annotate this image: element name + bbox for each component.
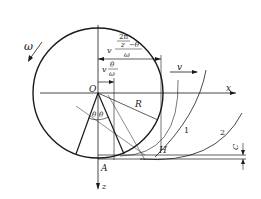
radius-label: R (134, 99, 142, 109)
curve-2-label: 2 (220, 128, 225, 137)
short-dim-num: θ (110, 61, 115, 69)
theta-left-label: θ (92, 111, 97, 119)
radius-line (98, 93, 158, 120)
short-dim-den: ω (109, 70, 115, 78)
point-a-label: A (100, 163, 108, 173)
velocity-arrow-head (192, 70, 198, 74)
dim-arrow-right (155, 57, 161, 61)
tooth-left-edge (76, 93, 98, 154)
long-dim-num-z: z (120, 41, 125, 49)
diagram-canvas: ω v v 2π z −θ ω v θ ω O x z R θ θ A H 1 … (0, 0, 261, 199)
trajectory-curve-2 (140, 113, 242, 160)
long-dim-v: v (107, 46, 112, 55)
long-dim-den: ω (124, 51, 130, 59)
construction-arc (120, 80, 178, 156)
point-h-label: H (158, 145, 167, 155)
clearance-arrow-bottom-head (241, 159, 245, 164)
velocity-label: v (177, 62, 182, 72)
tooth-right-edge (98, 93, 124, 154)
long-dim-num-2pi: 2π (119, 33, 128, 41)
x-axis-label: x (226, 83, 231, 93)
short-dim-arrow (109, 80, 114, 84)
construction-line-1 (76, 106, 145, 155)
curve-1-label: 1 (184, 126, 189, 135)
clearance-arrow-top-head (241, 150, 245, 155)
short-dim-v: v (102, 65, 107, 74)
long-dim-num-theta: −θ (129, 41, 140, 49)
origin-label: O (89, 84, 97, 94)
z-axis-arrow (96, 183, 100, 190)
z-axis-label: z (101, 182, 107, 191)
clearance-label: C (231, 144, 240, 150)
omega-label: ω (24, 40, 33, 53)
dim-arrow-left (98, 57, 104, 61)
theta-right-label: θ (99, 111, 104, 119)
